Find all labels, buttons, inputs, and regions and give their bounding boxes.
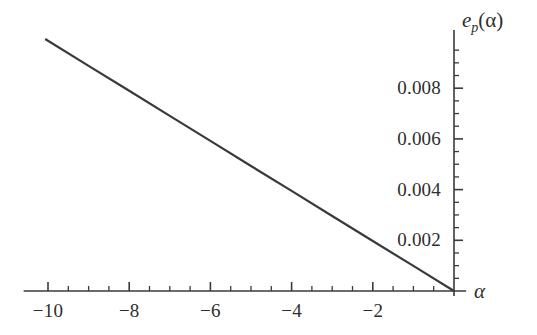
x-axis-label: α [474,279,485,304]
x-axis-tick-label: −6 [200,300,221,322]
y-axis-tick-label: 0.004 [397,179,441,201]
y-axis-label-argument: (α) [478,8,503,32]
y-axis-tick-label: 0.002 [397,229,441,251]
y-axis-tick-label: 0.008 [397,77,441,99]
y-axis-label-base: e [462,8,471,32]
plot-figure: −10−8−6−4−20.0020.0040.0060.008 α ep(α) [0,0,537,335]
x-axis-tick-label: −2 [362,300,383,322]
x-axis-tick-label: −10 [33,300,63,322]
y-axis-tick-label: 0.006 [397,128,441,150]
y-axis-label: ep(α) [462,8,503,36]
plot-canvas [0,0,537,335]
x-axis-tick-label: −8 [119,300,140,322]
x-axis-tick-label: −4 [281,300,302,322]
data-line-series-0 [45,39,454,291]
